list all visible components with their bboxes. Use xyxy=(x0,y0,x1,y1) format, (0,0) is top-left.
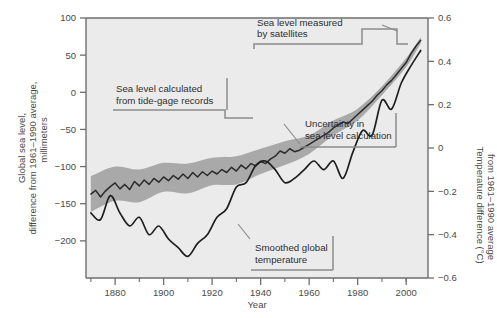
left-tick-label: −150 xyxy=(55,198,76,209)
left-tick-label: 50 xyxy=(65,50,76,61)
callout-tide-gage-line1: Sea level calculated xyxy=(116,83,202,94)
right-tick-label: −0.4 xyxy=(438,229,457,240)
callout-uncertainty-line2: sea level calculation xyxy=(305,130,392,141)
callout-temperature-line1: Smoothed global xyxy=(255,242,328,253)
right-tick-label: 0 xyxy=(438,142,443,153)
plot-area-background xyxy=(86,18,428,278)
x-tick-label: 1880 xyxy=(105,287,126,298)
x-tick-label: 1920 xyxy=(202,287,223,298)
x-tick-label: 2000 xyxy=(396,287,417,298)
x-tick-label: 1900 xyxy=(153,287,174,298)
callout-tide-gage-line2: from tide-gage records xyxy=(116,95,214,106)
figure-container: 100500−50−100−150−200 0.60.40.20−0.2−0.4… xyxy=(0,0,497,318)
callout-satellites-line2: by satellites xyxy=(257,28,308,39)
sea-level-temperature-chart: 100500−50−100−150−200 0.60.40.20−0.2−0.4… xyxy=(0,0,497,318)
left-axis-title-line3: millimeters xyxy=(38,117,49,163)
left-tick-label: −100 xyxy=(55,161,76,172)
callout-uncertainty-line1: Uncertainty in xyxy=(305,118,364,129)
left-tick-label: −50 xyxy=(60,124,76,135)
right-tick-label: 0.2 xyxy=(438,99,451,110)
right-axis-title-line2: from 1961–1990 average xyxy=(486,154,497,260)
x-tick-label: 1980 xyxy=(347,287,368,298)
x-axis-title: Year xyxy=(247,299,266,310)
left-tick-label: 100 xyxy=(60,12,76,23)
left-tick-label: −200 xyxy=(55,235,76,246)
right-axis-title-line1: Temperature difference (°C) xyxy=(475,146,486,263)
callout-satellites-line1: Sea level measured xyxy=(257,17,343,28)
left-tick-label: 0 xyxy=(71,87,76,98)
right-tick-label: −0.2 xyxy=(438,186,457,197)
right-axis-title: Temperature difference (°C) from 1961–19… xyxy=(475,146,497,263)
left-axis-title-line2: difference from 1961–1990 average, xyxy=(27,82,38,235)
x-tick-label: 1960 xyxy=(299,287,320,298)
callout-temperature-line2: temperature xyxy=(255,254,307,265)
right-tick-label: −0.6 xyxy=(438,272,457,283)
left-axis-title-line1: Global sea level, xyxy=(16,113,27,183)
x-tick-label: 1940 xyxy=(250,287,271,298)
right-tick-label: 0.4 xyxy=(438,56,451,67)
right-tick-label: 0.6 xyxy=(438,12,451,23)
